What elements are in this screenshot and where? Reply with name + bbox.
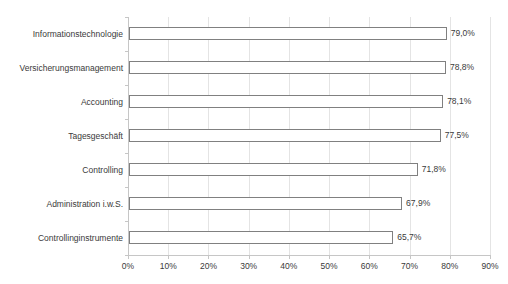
category-label: Controllinginstrumente: [0, 221, 123, 255]
x-tick-label: 20%: [200, 261, 217, 271]
bar-value-label: 78,1%: [447, 95, 471, 108]
bar-informationstechnologie: [129, 27, 447, 40]
bar-row-versicherungsmanagement: 78,8%: [129, 51, 491, 85]
bar-value-label: 65,7%: [397, 231, 421, 244]
bar-value-label: 79,0%: [451, 27, 475, 40]
bar-tagesgesch-ft: [129, 129, 441, 142]
y-axis-tick: [125, 255, 128, 256]
x-axis-tick: [410, 256, 411, 259]
bar-row-controllinginstrumente: 65,7%: [129, 221, 491, 255]
x-tick-label: 40%: [280, 261, 297, 271]
x-tick-label: 90%: [481, 261, 498, 271]
bar-value-label: 78,8%: [450, 61, 474, 74]
bar-row-informationstechnologie: 79,0%: [129, 17, 491, 51]
x-tick-label: 50%: [321, 261, 338, 271]
x-axis-tick: [168, 256, 169, 259]
x-tick-label: 70%: [401, 261, 418, 271]
bar-row-administration-i-w-s: 67,9%: [129, 187, 491, 221]
x-axis-tick: [208, 256, 209, 259]
x-axis-tick: [289, 256, 290, 259]
y-axis-tick: [125, 187, 128, 188]
x-axis-tick: [249, 256, 250, 259]
category-label: Administration i.w.S.: [0, 187, 123, 221]
bar-value-label: 71,8%: [422, 163, 446, 176]
x-axis-tick: [490, 256, 491, 259]
bar-row-controlling: 71,8%: [129, 153, 491, 187]
bar-row-tagesgesch-ft: 77,5%: [129, 119, 491, 153]
x-tick-label: 10%: [160, 261, 177, 271]
y-axis-tick: [125, 221, 128, 222]
x-axis-tick: [329, 256, 330, 259]
bar-versicherungsmanagement: [129, 61, 446, 74]
category-label: Tagesgeschäft: [0, 119, 123, 153]
y-axis-tick: [125, 153, 128, 154]
bar-chart: 79,0%78,8%78,1%77,5%71,8%67,9%65,7% Info…: [0, 0, 508, 284]
plot-area: 79,0%78,8%78,1%77,5%71,8%67,9%65,7%: [128, 17, 491, 256]
category-label: Accounting: [0, 85, 123, 119]
x-axis-tick: [450, 256, 451, 259]
x-tick-label: 0%: [122, 261, 134, 271]
bar-accounting: [129, 95, 443, 108]
x-tick-label: 80%: [441, 261, 458, 271]
x-axis-labels-group: 0%10%20%30%40%50%60%70%80%90%: [128, 261, 490, 273]
category-labels-group: InformationstechnologieVersicherungsmana…: [0, 17, 123, 255]
bar-administration-i-w-s: [129, 197, 402, 210]
category-label: Informationstechnologie: [0, 17, 123, 51]
y-axis-tick: [125, 51, 128, 52]
category-label: Controlling: [0, 153, 123, 187]
x-axis-tick: [128, 256, 129, 259]
x-axis-tick: [369, 256, 370, 259]
y-axis-tick: [125, 119, 128, 120]
bar-value-label: 67,9%: [406, 197, 430, 210]
x-tick-label: 30%: [240, 261, 257, 271]
bar-row-accounting: 78,1%: [129, 85, 491, 119]
y-axis-tick: [125, 17, 128, 18]
bar-controlling: [129, 163, 418, 176]
bar-controllinginstrumente: [129, 231, 393, 244]
category-label: Versicherungsmanagement: [0, 51, 123, 85]
bar-value-label: 77,5%: [445, 129, 469, 142]
x-tick-label: 60%: [361, 261, 378, 271]
y-axis-tick: [125, 85, 128, 86]
